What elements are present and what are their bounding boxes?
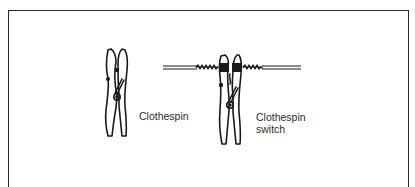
clothespin-switch-label: Clothespin switch xyxy=(256,111,306,135)
clothespin-switch-label-line2: switch xyxy=(256,123,306,135)
wire-right-icon xyxy=(262,66,301,69)
clothespin-label: Clothespin xyxy=(139,110,189,122)
zigzag-wire-left-icon xyxy=(196,66,218,69)
clothespin-switch-label-line1: Clothespin xyxy=(256,111,306,123)
zigzag-wire-right-icon xyxy=(243,66,261,69)
clothespin-icon xyxy=(106,49,128,136)
clothespin-switch-icon xyxy=(219,55,242,144)
wire-left-icon xyxy=(163,66,197,69)
diagram-canvas xyxy=(0,0,415,187)
